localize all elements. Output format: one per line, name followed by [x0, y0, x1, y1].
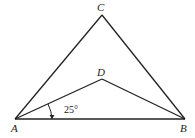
segment-CB: [102, 15, 185, 119]
point-label-B: B: [180, 122, 187, 134]
angle-label: 25°: [64, 104, 78, 115]
point-label-D: D: [96, 66, 105, 78]
geometry-figure: 25° A B C D: [0, 0, 195, 138]
segment-AC: [15, 15, 102, 119]
point-label-C: C: [97, 1, 105, 13]
point-label-A: A: [10, 122, 18, 134]
segment-AD: [15, 79, 102, 119]
segment-DB: [102, 79, 185, 119]
